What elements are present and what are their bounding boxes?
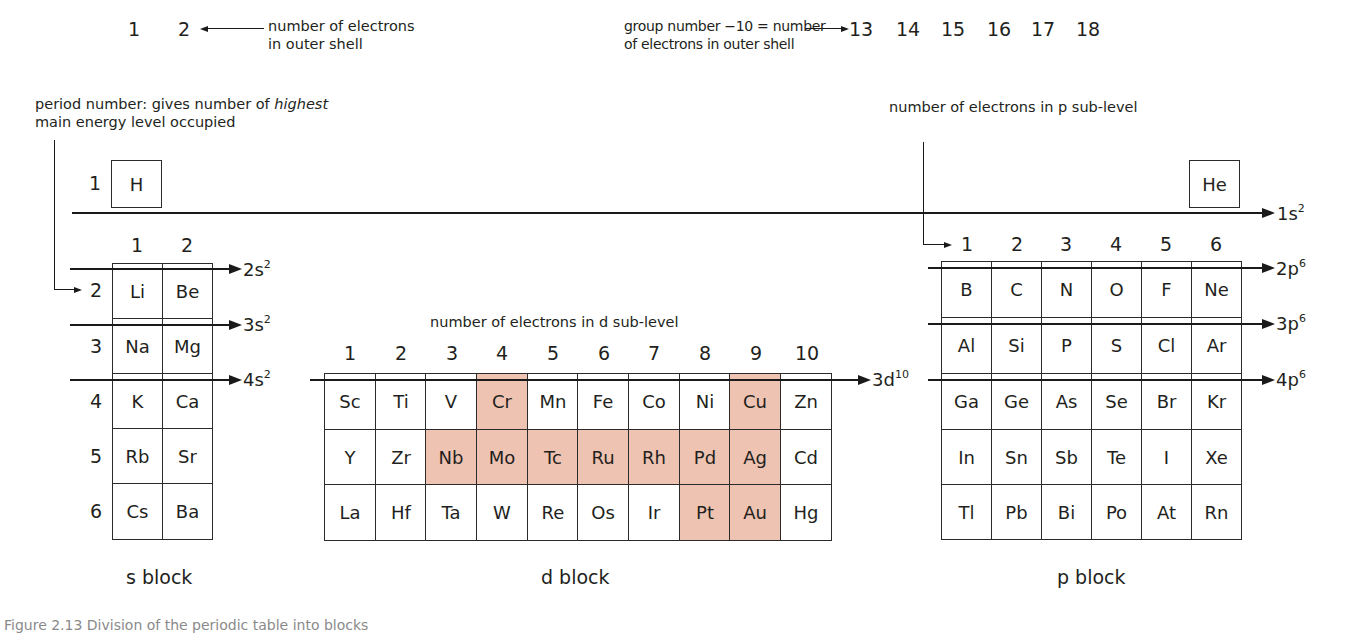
element-Mo: Mo [476, 429, 528, 485]
element-Cr: Cr [476, 373, 528, 430]
orbital-4p-line [928, 379, 1263, 381]
element-Co: Co [628, 373, 680, 430]
element-I: I [1141, 429, 1192, 485]
s-col-1-label: 1 [131, 236, 143, 255]
element-Hf: Hf [375, 484, 427, 541]
outer-shell-pointer-line [206, 28, 264, 29]
element-Br: Br [1141, 373, 1192, 430]
period-note-emphasis: highest [274, 96, 328, 112]
element-He: He [1189, 160, 1240, 208]
element-Fe: Fe [577, 373, 629, 430]
s-block-title: s block [126, 566, 192, 588]
element-Os: Os [577, 484, 629, 541]
element-Ag: Ag [729, 429, 781, 485]
orbital-2s-line [70, 268, 230, 270]
element-Cl: Cl [1141, 317, 1192, 374]
p-sublevel-pointer-line [923, 142, 924, 245]
element-Ca: Ca [162, 373, 213, 429]
element-Ni: Ni [679, 373, 731, 430]
element-Xe: Xe [1191, 429, 1242, 485]
element-Si: Si [991, 317, 1042, 374]
element-Na: Na [112, 318, 163, 374]
d-col-9-label: 9 [750, 344, 762, 363]
element-Hg: Hg [780, 484, 832, 541]
period-6-label: 6 [90, 502, 102, 521]
element-Ir: Ir [628, 484, 680, 541]
figure-caption: Figure 2.13 Division of the periodic tab… [4, 617, 368, 633]
element-O: O [1091, 261, 1142, 318]
orbital-4p-arrow-icon [1262, 375, 1275, 385]
element-Ru: Ru [577, 429, 629, 485]
arrow-to-p-column-1-icon [944, 242, 952, 248]
element-Nb: Nb [425, 429, 477, 485]
orbital-3s-label: 3s2 [243, 314, 271, 334]
element-Be: Be [162, 263, 213, 319]
element-Pb: Pb [991, 484, 1042, 540]
element-Zn: Zn [780, 373, 832, 430]
p-group-note-line2: of electrons in outer shell [624, 36, 794, 52]
element-Ar: Ar [1191, 317, 1242, 374]
orbital-1s-arrow-icon [1262, 208, 1275, 218]
element-Sn: Sn [991, 429, 1042, 485]
p-group-18-label: 18 [1076, 20, 1100, 39]
element-Pt: Pt [679, 484, 731, 541]
element-S: S [1091, 317, 1142, 374]
d-col-5-label: 5 [547, 344, 559, 363]
element-At: At [1141, 484, 1192, 540]
element-B: B [941, 261, 992, 318]
element-Cd: Cd [780, 429, 832, 485]
orbital-1s-line [72, 212, 1264, 214]
period-note-text: period number: gives number of [35, 96, 274, 112]
p-col-2-label: 2 [1011, 235, 1023, 254]
p-col-3-label: 3 [1060, 235, 1072, 254]
element-In: In [941, 429, 992, 485]
element-Ga: Ga [941, 373, 992, 430]
orbital-2s-label: 2s2 [243, 259, 271, 279]
period-note-line2: main energy level occupied [35, 114, 235, 131]
period-3-label: 3 [90, 337, 102, 356]
element-V: V [425, 373, 477, 430]
orbital-3d-label: 3d10 [872, 369, 909, 389]
element-Mg: Mg [162, 318, 213, 374]
element-Sb: Sb [1041, 429, 1092, 485]
p-group-15-label: 15 [941, 20, 965, 39]
element-Ge: Ge [991, 373, 1042, 430]
element-Sr: Sr [162, 428, 213, 484]
p-group-17-label: 17 [1031, 20, 1055, 39]
element-Re: Re [527, 484, 579, 541]
p-group-pointer-line [806, 28, 842, 29]
element-Au: Au [729, 484, 781, 541]
period-5-label: 5 [90, 447, 102, 466]
d-sublevel-note: number of electrons in d sub-level [430, 314, 678, 331]
element-Tc: Tc [527, 429, 579, 485]
element-F: F [1141, 261, 1192, 318]
p-sublevel-note: number of electrons in p sub-level [889, 99, 1137, 116]
orbital-2p-arrow-icon [1262, 263, 1275, 273]
element-Ba: Ba [162, 483, 213, 540]
element-H: H [111, 160, 162, 208]
arrow-to-period-2-icon [74, 287, 82, 293]
element-Bi: Bi [1041, 484, 1092, 540]
p-col-1-label: 1 [961, 235, 973, 254]
orbital-4s-arrow-icon [229, 375, 242, 385]
element-Pd: Pd [679, 429, 731, 485]
element-Po: Po [1091, 484, 1142, 540]
p-col-6-label: 6 [1210, 235, 1222, 254]
element-Kr: Kr [1191, 373, 1242, 430]
element-W: W [476, 484, 528, 541]
element-Rb: Rb [112, 428, 163, 484]
element-Zr: Zr [375, 429, 427, 485]
element-Ta: Ta [425, 484, 477, 541]
element-Cs: Cs [112, 483, 163, 540]
d-col-4-label: 4 [496, 344, 508, 363]
p-col-5-label: 5 [1160, 235, 1172, 254]
period-2-label: 2 [90, 281, 102, 300]
s-col-2-label: 2 [181, 236, 193, 255]
p-group-16-label: 16 [987, 20, 1011, 39]
orbital-2s-arrow-icon [229, 264, 242, 274]
orbital-3p-line [928, 323, 1263, 325]
element-Y: Y [324, 429, 376, 485]
p-block-title: p block [1057, 566, 1126, 588]
element-Tl: Tl [941, 484, 992, 540]
d-block-title: d block [541, 566, 610, 588]
